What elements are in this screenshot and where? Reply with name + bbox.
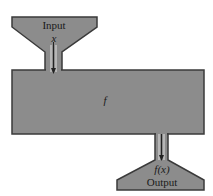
input-variable: x [51, 32, 57, 44]
function-box [12, 70, 204, 134]
output-variable: f(x) [154, 163, 170, 176]
function-machine-diagram: Input x f f(x) Output [0, 0, 213, 196]
diagram-canvas: Input x f f(x) Output [0, 0, 213, 196]
input-label: Input [42, 19, 65, 31]
output-label: Output [147, 176, 178, 188]
